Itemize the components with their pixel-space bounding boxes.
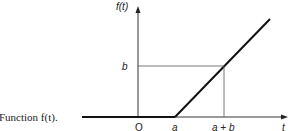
t-axis-label: t: [282, 122, 286, 131]
y-axis-arrow-icon: [136, 6, 141, 13]
function-ramp-segment: [175, 19, 270, 117]
figure-caption: Function f(t).: [0, 111, 58, 124]
t-axis-arrow-icon: [281, 115, 288, 120]
a-plus-b-tick-label: a + b: [212, 122, 235, 131]
y-axis-label: f(t): [116, 1, 128, 12]
function-diagram: f(t) b O a a + b t Function f(t).: [0, 0, 294, 131]
b-tick-label: b: [122, 61, 128, 72]
a-tick-label: a: [172, 122, 178, 131]
origin-label: O: [135, 122, 143, 131]
